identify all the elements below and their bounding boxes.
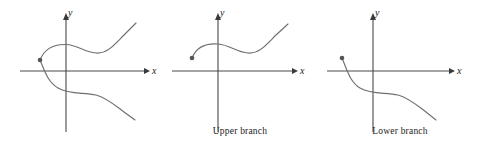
y-axis-label: y — [374, 7, 380, 18]
endpoint-dot-icon — [340, 56, 345, 61]
relation-svg: x y — [0, 0, 160, 146]
plot-panel-relation: x y — [0, 0, 160, 146]
relation-lower-curve — [40, 60, 135, 120]
upper-branch-curve — [192, 24, 288, 58]
x-axis-arrow-icon — [292, 68, 298, 74]
x-axis-arrow-icon — [449, 68, 455, 74]
endpoint-dot-icon — [190, 56, 195, 61]
panel-caption-lower-branch: Lower branch — [320, 126, 480, 136]
lower-branch-svg: x y — [320, 0, 480, 146]
x-axis-arrow-icon — [144, 68, 150, 74]
plot-panel-lower-branch: x y Lower branch — [320, 0, 480, 146]
x-axis-label: x — [456, 65, 462, 76]
endpoint-dot-icon — [38, 58, 43, 63]
figure-container: x y x y Upper branch — [0, 0, 480, 146]
plot-panel-upper-branch: x y Upper branch — [160, 0, 320, 146]
y-axis-label: y — [67, 7, 73, 18]
y-axis-label: y — [219, 7, 225, 18]
x-axis-label: x — [151, 65, 157, 76]
x-axis-label: x — [299, 65, 305, 76]
upper-branch-svg: x y — [160, 0, 320, 146]
relation-upper-curve — [40, 23, 136, 60]
panel-caption-upper-branch: Upper branch — [160, 126, 320, 136]
lower-branch-curve — [342, 58, 436, 120]
